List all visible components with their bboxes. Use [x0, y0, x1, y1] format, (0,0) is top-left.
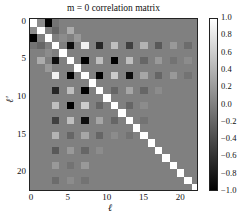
colorbar-tick-label: −0.4	[221, 133, 236, 143]
colorbar	[209, 18, 218, 191]
colorbar-tick-label: −0.6	[221, 150, 236, 160]
colorbar-tick-label: −1.0	[221, 185, 236, 195]
colorbar-tick-label: 0.8	[221, 29, 232, 39]
chart-title: m = 0 correlation matrix	[29, 3, 198, 13]
colorbar-tick-label: 0.2	[221, 81, 232, 91]
x-axis-label: ℓ	[108, 202, 112, 213]
colorbar-tick-label: −0.2	[221, 116, 236, 126]
colorbar-tick-label: −0.8	[221, 168, 236, 178]
x-tick-label: 15	[139, 192, 148, 202]
colorbar-tick-label: 0.0	[221, 99, 232, 109]
x-tick-label: 0	[29, 192, 34, 202]
x-tick-label: 20	[176, 192, 185, 202]
x-tick-label: 10	[102, 192, 111, 202]
colorbar-tick-label: 0.4	[221, 64, 232, 74]
matrix-cell	[192, 184, 198, 191]
heatmap-plot	[29, 18, 198, 191]
colorbar-tick-label: 1.0	[221, 12, 232, 22]
y-tick-label: 20	[6, 166, 26, 176]
y-tick-label: 0	[6, 16, 26, 26]
y-tick-label: 15	[6, 129, 26, 139]
colorbar-tick-label: 0.6	[221, 47, 232, 57]
x-tick-label: 5	[65, 192, 70, 202]
y-tick-label: 5	[6, 53, 26, 63]
y-axis-label: ℓ'	[4, 96, 15, 102]
